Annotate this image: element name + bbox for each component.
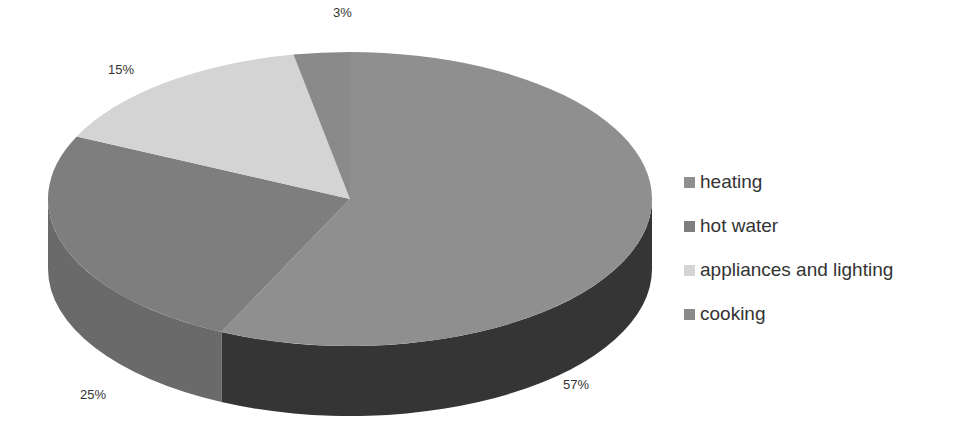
pie-slices (48, 52, 652, 346)
legend-label: cooking (700, 303, 766, 325)
label-appliances: 15% (108, 62, 134, 77)
label-heating: 57% (563, 377, 589, 392)
legend-swatch-heating (684, 177, 695, 188)
legend-item-hot-water: hot water (684, 204, 893, 248)
chart-legend: heating hot water appliances and lightin… (684, 160, 893, 336)
legend-swatch-appliances (684, 265, 695, 276)
legend-item-heating: heating (684, 160, 893, 204)
legend-item-cooking: cooking (684, 292, 893, 336)
legend-label: hot water (700, 215, 778, 237)
legend-swatch-hot-water (684, 221, 695, 232)
legend-label: appliances and lighting (700, 259, 893, 281)
label-cooking: 3% (333, 5, 352, 20)
legend-label: heating (700, 171, 762, 193)
legend-item-appliances: appliances and lighting (684, 248, 893, 292)
label-hot-water: 25% (80, 387, 106, 402)
legend-swatch-cooking (684, 309, 695, 320)
